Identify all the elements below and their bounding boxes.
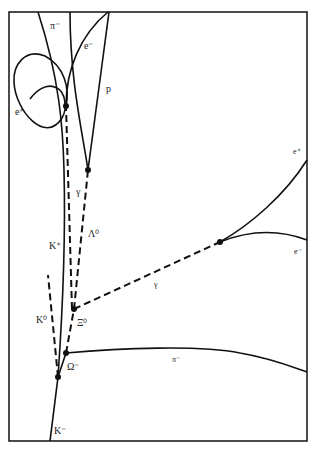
- label-omega-minus: Ω⁻: [67, 361, 79, 372]
- label-k-minus: K⁻: [54, 425, 66, 436]
- track-gamma-upper: [66, 106, 72, 309]
- track-e-plus-right: [220, 160, 307, 242]
- label-k-plus: K⁺: [49, 240, 61, 251]
- vertex-gamma-conversion-right: [217, 239, 223, 245]
- track-pi-minus-top: [70, 12, 88, 170]
- vertex-primary: [55, 374, 61, 380]
- frame: [9, 12, 307, 441]
- label-gamma-upper: γ: [75, 186, 81, 197]
- bubble-chamber-diagram: π⁻ e⁻ p e⁺ γ Λ⁰ K⁺ e⁺ e⁻ γ K⁰ Ξ⁰ Ω⁻ π⁻ K…: [0, 0, 315, 454]
- track-k0: [48, 275, 58, 377]
- vertex-xi-decay: [71, 306, 77, 312]
- label-e-plus-right: e⁺: [293, 147, 301, 156]
- vertex-omega-decay: [63, 350, 69, 356]
- label-e-plus-spiral: e⁺: [15, 106, 24, 117]
- label-lambda0: Λ⁰: [88, 228, 99, 239]
- track-xi0: [66, 309, 74, 353]
- track-gamma-right: [74, 242, 220, 309]
- label-pi-minus-right: π⁻: [172, 355, 180, 364]
- track-pi-minus-right: [66, 348, 307, 372]
- label-e-minus-top: e⁻: [84, 40, 93, 51]
- label-k0: K⁰: [36, 314, 47, 325]
- vertex-lambda-decay: [85, 167, 91, 173]
- label-pi-minus-top: π⁻: [50, 20, 60, 31]
- label-gamma-right: γ: [153, 280, 158, 289]
- label-xi0: Ξ⁰: [77, 317, 87, 328]
- label-e-minus-right: e⁻: [294, 247, 302, 256]
- label-proton: p: [106, 83, 111, 94]
- vertex-gamma-conversion-upper: [63, 103, 69, 109]
